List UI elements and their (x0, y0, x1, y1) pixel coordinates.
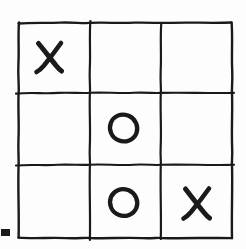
cell-middle-left-mark (18, 93, 19, 94)
cell-bottom-left[interactable] (18, 165, 90, 238)
cell-bottom-center[interactable]: O (90, 165, 161, 238)
cell-top-center[interactable] (90, 22, 161, 93)
cell-top-center-mark (90, 22, 91, 23)
cell-bottom-right-mark: X (161, 165, 162, 166)
cell-top-left-mark: X (18, 22, 19, 23)
dash-mark-icon (1, 229, 10, 236)
cell-middle-left[interactable] (18, 93, 90, 165)
cell-top-right[interactable] (161, 22, 232, 93)
cell-bottom-left-mark (18, 165, 19, 166)
cell-middle-right[interactable] (161, 93, 232, 165)
tic-tac-toe-board: Tic-Tac-Toe (0, 0, 246, 249)
cell-top-right-mark (161, 22, 162, 23)
cell-middle-right-mark (161, 93, 162, 94)
cell-bottom-right[interactable]: X (161, 165, 232, 238)
cell-middle-center[interactable]: O (90, 93, 161, 165)
cell-middle-center-mark: O (90, 93, 91, 94)
cell-top-left[interactable]: X (18, 22, 90, 93)
cell-bottom-center-mark: O (90, 165, 91, 166)
